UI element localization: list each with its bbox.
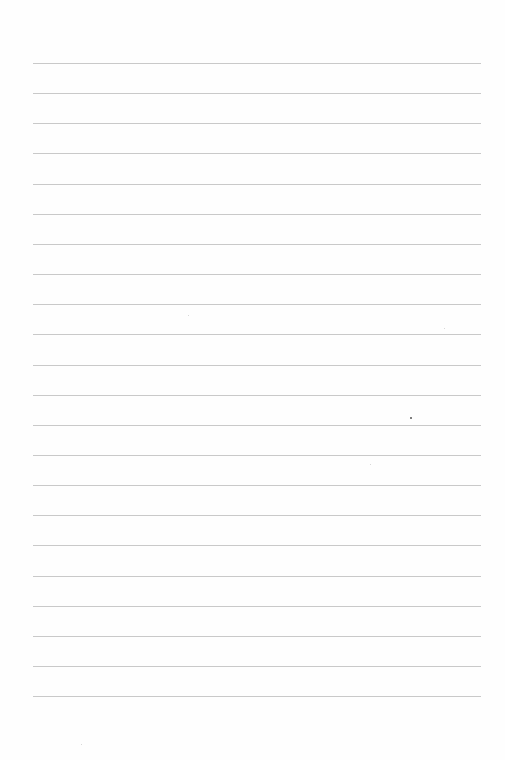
paper-speck [370,464,371,465]
ruled-line [33,666,481,667]
ruled-line [33,153,481,154]
ruled-line [33,365,481,366]
ruled-line [33,485,481,486]
ruled-line [33,696,481,697]
ruled-line [33,576,481,577]
ruled-line [33,425,481,426]
ruled-line [33,244,481,245]
ruled-line [33,545,481,546]
paper-speck [444,328,445,329]
ruled-line [33,184,481,185]
ruled-line [33,214,481,215]
ruled-line [33,334,481,335]
ruled-line [33,304,481,305]
paper-speck [188,315,189,316]
ruled-line [33,274,481,275]
ruled-line [33,606,481,607]
ink-speck [410,417,412,419]
ruled-line [33,63,481,64]
ruled-line [33,636,481,637]
ruled-line [33,123,481,124]
paper-speck [81,744,82,745]
ruled-line [33,395,481,396]
ruled-line [33,515,481,516]
ruled-line [33,455,481,456]
ruled-line [33,93,481,94]
lined-paper-page [0,0,505,760]
